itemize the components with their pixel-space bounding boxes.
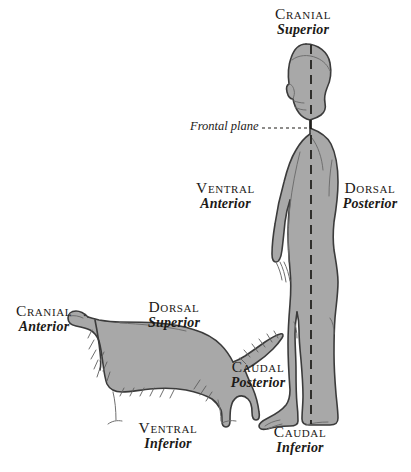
anatomy-figure: .fill { fill: #a8a8a8; } .edge { fill: n…	[0, 0, 411, 472]
label-human-dorsal-primary: Dorsal	[330, 180, 410, 196]
label-human-cranial-primary: Cranial	[243, 6, 363, 22]
label-dog-caudal-secondary: Posterior	[212, 376, 304, 390]
label-dog-dorsal-primary: Dorsal	[132, 299, 216, 315]
label-dog-ventral-secondary: Inferior	[118, 437, 218, 451]
label-human-ventral: Ventral Anterior	[178, 180, 273, 211]
label-human-cranial: Cranial Superior	[243, 6, 363, 37]
label-dog-cranial: Cranial Anterior	[2, 303, 86, 334]
label-frontal-plane: Frontal plane	[190, 119, 259, 134]
label-dog-ventral-primary: Ventral	[118, 420, 218, 436]
label-dog-cranial-secondary: Anterior	[2, 320, 86, 334]
label-human-dorsal-secondary: Posterior	[330, 197, 410, 211]
label-human-caudal-primary: Caudal	[248, 424, 352, 440]
label-human-caudal-secondary: Inferior	[248, 441, 352, 455]
label-human-ventral-secondary: Anterior	[178, 197, 273, 211]
label-human-caudal: Caudal Inferior	[248, 424, 352, 455]
label-dog-dorsal: Dorsal Superior	[132, 299, 216, 330]
label-human-ventral-primary: Ventral	[178, 180, 273, 196]
figure-artwork: .fill { fill: #a8a8a8; } .edge { fill: n…	[0, 0, 411, 472]
label-dog-ventral: Ventral Inferior	[118, 420, 218, 451]
label-human-dorsal: Dorsal Posterior	[330, 180, 410, 211]
label-dog-dorsal-secondary: Superior	[132, 316, 216, 330]
label-dog-caudal: Caudal Posterior	[212, 359, 304, 390]
label-dog-caudal-primary: Caudal	[212, 359, 304, 375]
label-human-cranial-secondary: Superior	[243, 23, 363, 37]
label-dog-cranial-primary: Cranial	[2, 303, 86, 319]
